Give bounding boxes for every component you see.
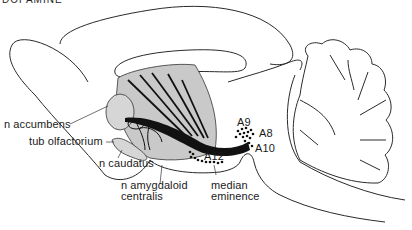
label-n-amygdaloid: n amygdaloid centralis — [121, 180, 188, 202]
label-median-line2: eminence — [211, 191, 260, 202]
dopamine-pathway-diagram: DOPAMINE — [0, 0, 412, 230]
label-tub-olfactorium: tub olfactorium — [29, 136, 103, 147]
label-n-amygdaloid-line2: centralis — [121, 191, 188, 202]
cortex-outline — [60, 6, 293, 64]
hypothalamus-outline — [150, 160, 240, 173]
accumbens-region — [106, 94, 134, 130]
label-a12: A12 — [204, 151, 224, 162]
label-n-caudatus: n caudatus — [99, 158, 154, 169]
label-a8: A8 — [259, 128, 273, 139]
olfactory-bulb-outline — [10, 40, 105, 175]
brainstem-outline — [240, 154, 385, 222]
label-a9: A9 — [237, 117, 251, 128]
cerebellum-outline — [293, 40, 392, 183]
label-median-eminence: median eminence — [211, 180, 260, 202]
label-n-accumbens: n accumbens — [4, 119, 71, 130]
label-a10: A10 — [255, 143, 275, 154]
brain-sagittal-drawing — [0, 0, 412, 230]
